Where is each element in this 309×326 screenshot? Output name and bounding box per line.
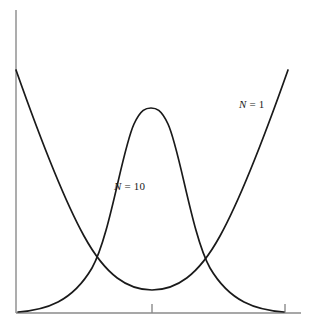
curve-label-n1: N = 1 bbox=[239, 99, 265, 110]
plot-canvas bbox=[0, 0, 309, 326]
figure-container: N = 1 N = 10 bbox=[0, 0, 309, 326]
curve-n10 bbox=[18, 108, 284, 312]
curve-label-n1-value: = 1 bbox=[247, 98, 265, 110]
curve-label-n10-value: = 10 bbox=[122, 180, 146, 192]
curve-label-n10-symbol: N bbox=[114, 180, 122, 192]
curve-label-n1-symbol: N bbox=[239, 98, 247, 110]
curve-label-n10: N = 10 bbox=[114, 181, 145, 192]
